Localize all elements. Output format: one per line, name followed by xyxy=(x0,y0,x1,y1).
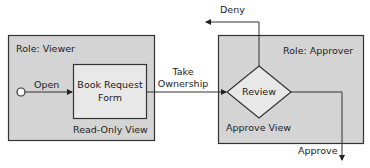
form-label-line1: Book Request xyxy=(74,79,146,90)
viewer-role-label: Role: Viewer xyxy=(16,43,75,54)
take-ownership-label-line2: Ownership xyxy=(150,78,216,89)
open-edge-label: Open xyxy=(34,79,59,90)
approve-view-label: Approve View xyxy=(226,122,291,133)
review-label: Review xyxy=(227,86,291,97)
deny-edge-label: Deny xyxy=(220,4,245,15)
approve-edge-label: Approve xyxy=(298,145,338,156)
read-only-view-label: Read-Only View xyxy=(73,124,148,135)
form-label-line2: Form xyxy=(74,92,146,103)
take-ownership-label-line1: Take xyxy=(150,66,216,77)
approver-role-label: Role: Approver xyxy=(283,45,353,56)
start-node-icon xyxy=(17,88,25,96)
